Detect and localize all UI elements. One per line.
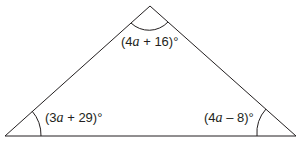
bottom-left-angle-arc (32, 111, 41, 136)
triangle-diagram: (4a + 16)° (3a + 29)° (4a – 8)° (0, 0, 298, 141)
top-angle-arc (131, 22, 168, 30)
top-angle-label: (4a + 16)° (121, 34, 178, 50)
bottom-left-angle-label: (3a + 29)° (45, 110, 102, 126)
bottom-right-angle-arc (257, 109, 266, 136)
bottom-right-angle-label: (4a – 8)° (204, 110, 254, 126)
